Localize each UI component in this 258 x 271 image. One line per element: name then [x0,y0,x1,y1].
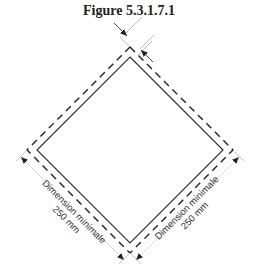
diamond-diagram: Dimension minimale 250 mm Dimension mini… [0,0,258,271]
dashed-diamond [27,47,233,253]
right-dimension-label: Dimension minimale [152,173,220,241]
